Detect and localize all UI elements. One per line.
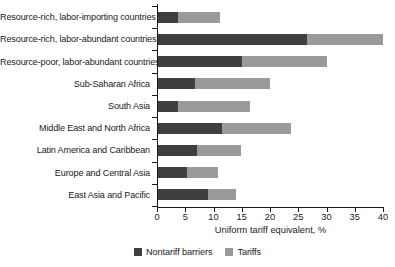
- legend-item: Tariffs: [225, 247, 261, 257]
- bar-segment: [157, 123, 222, 134]
- bar-row: [157, 78, 270, 89]
- bar-segment: [178, 12, 220, 23]
- category-label: Resource-rich, labor-importing countries: [0, 12, 150, 22]
- bar-segment: [242, 56, 327, 67]
- bar-segment: [178, 101, 250, 112]
- stacked-bar-chart: Resource-rich, labor-importing countries…: [0, 0, 395, 267]
- legend-swatch-icon: [225, 248, 233, 256]
- category-label: Sub-Saharan Africa: [0, 79, 150, 89]
- x-axis-tick-label: 30: [312, 212, 342, 223]
- category-label: South Asia: [0, 101, 150, 111]
- bar-segment: [157, 101, 178, 112]
- bar-row: [157, 12, 220, 23]
- y-axis-tick: [152, 95, 157, 96]
- bar-row: [157, 145, 241, 156]
- category-axis-labels: Resource-rich, labor-importing countries…: [0, 6, 150, 206]
- bar-segment: [307, 34, 383, 45]
- bar-segment: [208, 189, 236, 200]
- y-axis-tick: [152, 206, 157, 207]
- category-label: Resource-rich, labor-abundant countries: [0, 34, 150, 44]
- y-axis-tick: [152, 73, 157, 74]
- y-axis-tick: [152, 184, 157, 185]
- bar-segment: [222, 123, 291, 134]
- y-axis-tick: [152, 162, 157, 163]
- bar-segment: [187, 167, 218, 178]
- x-axis-tick-label: 10: [199, 212, 229, 223]
- x-axis-tick-label: 20: [255, 212, 285, 223]
- bar-segment: [157, 12, 178, 23]
- x-axis-tick-label: 35: [340, 212, 370, 223]
- bar-segment: [157, 167, 187, 178]
- bar-segment: [157, 145, 197, 156]
- y-axis-tick: [152, 28, 157, 29]
- x-axis-tick-label: 5: [170, 212, 200, 223]
- bar-segment: [157, 34, 307, 45]
- bar-row: [157, 167, 218, 178]
- legend-swatch-icon: [134, 248, 142, 256]
- y-axis-tick: [152, 139, 157, 140]
- x-axis-tick-label: 25: [283, 212, 313, 223]
- chart-legend: Nontariff barriersTariffs: [0, 247, 395, 257]
- bar-row: [157, 56, 327, 67]
- y-axis-line: [157, 4, 158, 208]
- x-axis-tick-label: 15: [227, 212, 257, 223]
- x-axis-tick-label: 40: [368, 212, 395, 223]
- plot-area: [157, 6, 383, 206]
- y-axis-tick: [152, 117, 157, 118]
- legend-item: Nontariff barriers: [134, 247, 212, 257]
- bar-row: [157, 101, 250, 112]
- legend-label: Tariffs: [237, 247, 261, 257]
- bar-segment: [157, 189, 208, 200]
- bar-row: [157, 123, 291, 134]
- y-axis-tick: [152, 6, 157, 7]
- category-label: Resource-poor, labor-abundant countries: [0, 57, 150, 67]
- x-axis-tick-label: 0: [142, 212, 172, 223]
- category-label: Middle East and North Africa: [0, 123, 150, 133]
- x-axis-title: Uniform tariff equivalent, %: [157, 225, 384, 236]
- category-label: East Asia and Pacific: [0, 190, 150, 200]
- legend-label: Nontariff barriers: [146, 247, 212, 257]
- category-label: Europe and Central Asia: [0, 168, 150, 178]
- category-label: Latin America and Caribbean: [0, 145, 150, 155]
- bar-row: [157, 34, 383, 45]
- bar-segment: [157, 56, 242, 67]
- y-axis-tick: [152, 50, 157, 51]
- bar-row: [157, 189, 236, 200]
- bar-segment: [157, 78, 195, 89]
- bar-segment: [195, 78, 270, 89]
- bar-segment: [197, 145, 241, 156]
